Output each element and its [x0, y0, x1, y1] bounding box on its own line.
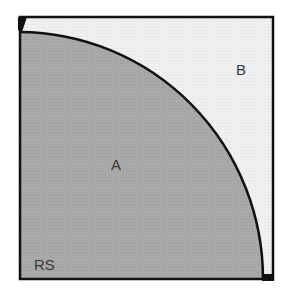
corner-mark-bottom-right: [262, 274, 274, 281]
label-a: A: [111, 156, 121, 173]
label-rs: RS: [34, 256, 55, 273]
label-b: B: [236, 61, 246, 78]
quarter-circle-diagram: B A RS: [0, 0, 291, 298]
